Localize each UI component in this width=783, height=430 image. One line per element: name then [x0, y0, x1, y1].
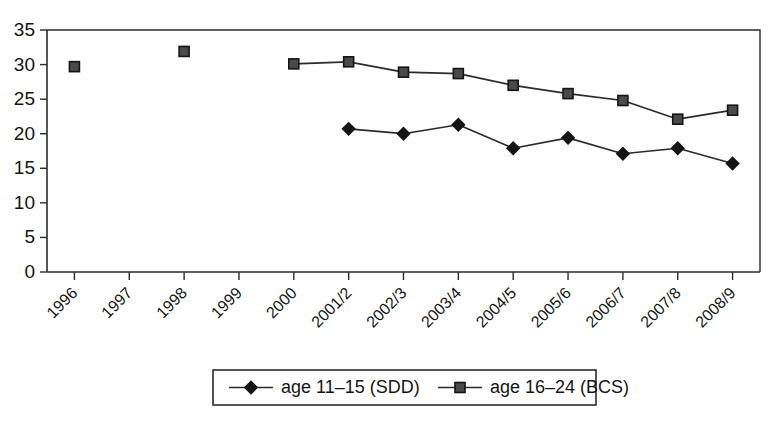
- y-tick-label: 10: [14, 192, 35, 213]
- data-point-marker-square: [453, 69, 463, 79]
- data-point-marker-square: [399, 67, 409, 77]
- y-tick-label: 35: [14, 19, 35, 40]
- data-point-marker-square: [618, 96, 628, 106]
- data-point-marker-square: [563, 89, 573, 99]
- chart-container: 05101520253035 199619971998199920002001/…: [0, 0, 783, 430]
- y-tick-label: 0: [24, 261, 35, 282]
- data-point-marker-square: [728, 105, 738, 115]
- data-point-marker-square: [289, 59, 299, 69]
- data-point-marker-square: [673, 114, 683, 124]
- data-point-marker-square: [455, 383, 465, 393]
- data-point-marker-square: [69, 62, 79, 72]
- y-tick-label: 25: [14, 88, 35, 109]
- y-tick-label: 5: [24, 226, 35, 247]
- data-point-marker-square: [508, 80, 518, 90]
- data-point-marker-square: [344, 57, 354, 67]
- chart-legend: age 11–15 (SDD)age 16–24 (BCS): [213, 370, 629, 405]
- data-point-marker-square: [179, 46, 189, 56]
- y-tick-label: 30: [14, 54, 35, 75]
- legend-label: age 16–24 (BCS): [490, 377, 629, 397]
- legend-label: age 11–15 (SDD): [281, 377, 420, 397]
- line-chart: 05101520253035 199619971998199920002001/…: [0, 0, 783, 430]
- y-tick-label: 15: [14, 157, 35, 178]
- chart-background: [0, 0, 783, 430]
- y-tick-label: 20: [14, 123, 35, 144]
